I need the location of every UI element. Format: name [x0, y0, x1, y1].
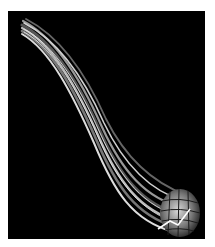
- visualization-canvas: [8, 11, 205, 239]
- streamline-strands: [22, 19, 186, 232]
- streamline-bundle: [8, 11, 205, 239]
